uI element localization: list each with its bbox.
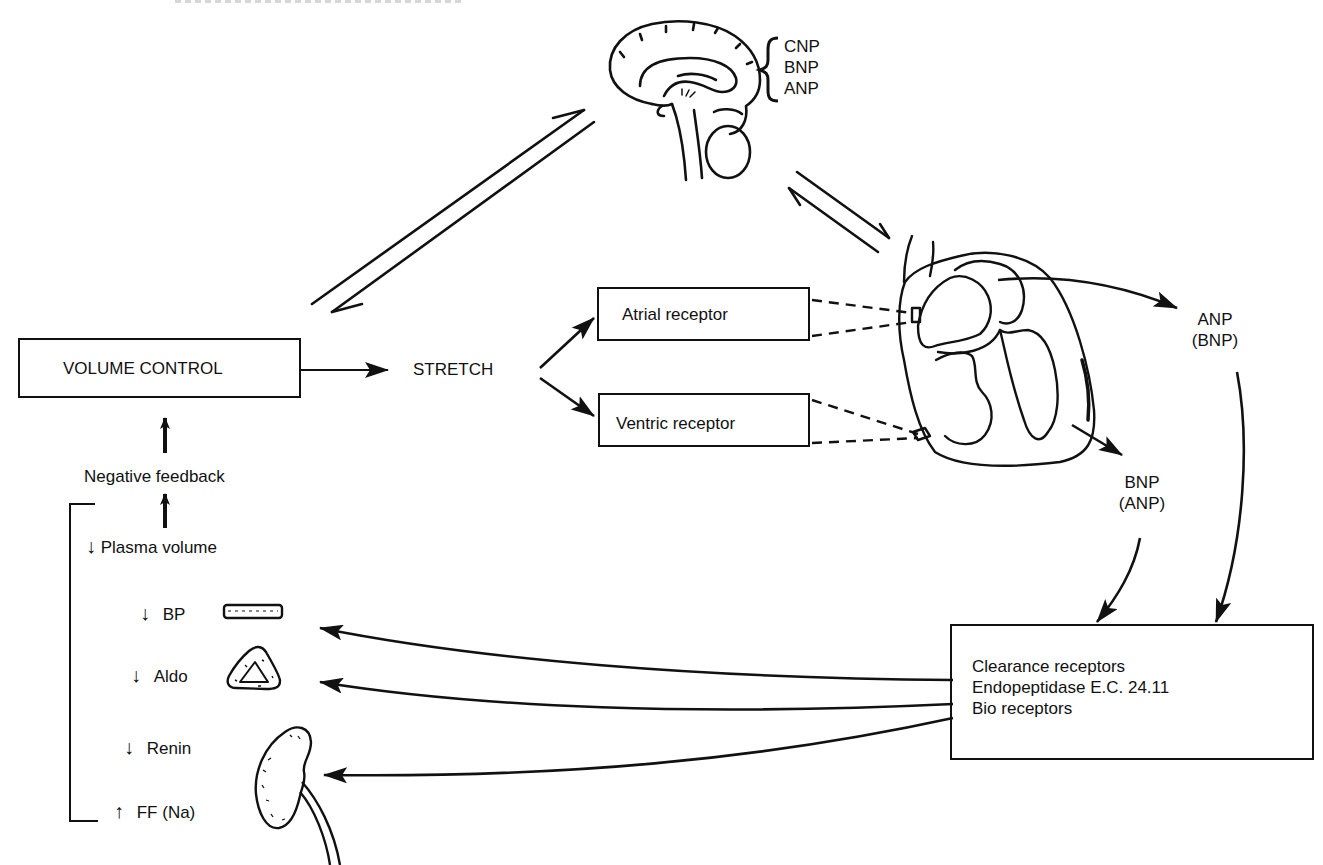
brain-peptide-list: CNP BNP ANP bbox=[784, 36, 820, 99]
decrease-arrow-icon: ↓ bbox=[131, 664, 141, 686]
ventric-receptor-label: Ventric receptor bbox=[616, 414, 735, 434]
effect-row-ff-na: ↑ FF (Na) bbox=[114, 801, 195, 821]
renin-label: Renin bbox=[147, 739, 191, 758]
clearance-box-lines: Clearance receptors Endopeptidase E.C. 2… bbox=[972, 656, 1169, 719]
arrow-stretch-to-ventric bbox=[540, 378, 594, 416]
arrow-stretch-to-atrial bbox=[540, 318, 594, 368]
heart-cross-section-icon bbox=[899, 236, 1094, 466]
negative-feedback-label: Negative feedback bbox=[84, 468, 225, 485]
diagram-canvas: CNP BNP ANP VOLUME CONTROL STRETCH Atria… bbox=[0, 0, 1323, 865]
decrease-arrow-icon: ↓ bbox=[86, 535, 96, 557]
arrow-heart-to-bnp bbox=[1072, 425, 1122, 455]
clearance-box: Clearance receptors Endopeptidase E.C. 2… bbox=[950, 624, 1314, 760]
kidney-icon bbox=[256, 727, 340, 865]
volume-control-box: VOLUME CONTROL bbox=[18, 338, 301, 398]
adrenal-gland-icon bbox=[228, 647, 280, 689]
anp-bnp-label: ANP (BNP) bbox=[1185, 309, 1245, 351]
peptide-bnp: BNP bbox=[784, 57, 820, 78]
anp-label: ANP bbox=[1185, 309, 1245, 330]
decrease-arrow-icon: ↓ bbox=[140, 602, 150, 624]
ventric-receptor-box: Ventric receptor bbox=[598, 393, 810, 447]
bnp-label: BNP bbox=[1112, 472, 1172, 493]
equilibrium-arrow-brain-heart bbox=[789, 172, 889, 252]
brace-icon bbox=[760, 38, 778, 101]
decrease-arrow-icon: ↓ bbox=[124, 736, 134, 758]
aldo-label: Aldo bbox=[154, 667, 188, 686]
clearance-receptors-label: Clearance receptors bbox=[972, 656, 1169, 677]
arrow-anp-to-clearance bbox=[1216, 372, 1244, 622]
effect-row-bp: ↓ BP bbox=[140, 603, 185, 623]
arrow-bnp-to-clearance bbox=[1097, 538, 1140, 622]
bnp-anp-label: BNP (ANP) bbox=[1112, 472, 1172, 514]
brain-sagittal-icon bbox=[610, 21, 760, 180]
atrial-receptor-label: Atrial receptor bbox=[622, 305, 728, 325]
atrial-receptor-box: Atrial receptor bbox=[597, 287, 810, 341]
bp-label: BP bbox=[163, 605, 186, 624]
endopeptidase-label: Endopeptidase E.C. 24.11 bbox=[972, 677, 1169, 698]
dashed-receptor-connectors bbox=[812, 300, 918, 443]
peptide-cnp: CNP bbox=[784, 36, 820, 57]
effect-row-aldo: ↓ Aldo bbox=[131, 665, 188, 685]
arrow-clearance-to-kidney bbox=[324, 718, 953, 775]
equilibrium-arrow-brain-volume bbox=[312, 110, 594, 312]
anp-secondary-label: (ANP) bbox=[1112, 493, 1172, 514]
plasma-volume-row: ↓ Plasma volume bbox=[86, 536, 217, 556]
increase-arrow-icon: ↑ bbox=[114, 800, 124, 822]
ff-na-label: FF (Na) bbox=[137, 803, 196, 822]
bnp-secondary-label: (BNP) bbox=[1185, 330, 1245, 351]
volume-control-label: VOLUME CONTROL bbox=[63, 359, 223, 379]
plasma-volume-label: Plasma volume bbox=[101, 538, 217, 557]
effect-row-renin: ↓ Renin bbox=[124, 737, 191, 757]
bio-receptors-label: Bio receptors bbox=[972, 698, 1169, 719]
peptide-anp: ANP bbox=[784, 78, 820, 99]
stretch-label: STRETCH bbox=[413, 361, 493, 378]
blood-vessel-icon bbox=[224, 605, 282, 618]
arrow-clearance-to-bp bbox=[320, 628, 953, 680]
arrow-clearance-to-aldo bbox=[320, 682, 953, 709]
